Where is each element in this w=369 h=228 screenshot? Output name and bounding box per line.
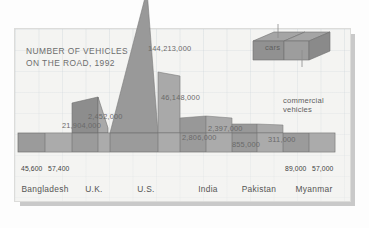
value-label-uk-cars: 21,904,000 <box>62 121 101 130</box>
baseline-label-myanmar-cars: 89,000 <box>285 165 306 172</box>
category-label-bangladesh: Bangladesh <box>14 184 76 194</box>
baseline-label-bangladesh-commercial: 57,400 <box>48 165 69 172</box>
value-label-india-commercial: 2,397,000 <box>208 124 243 133</box>
baseline-label-myanmar-commercial: 57,000 <box>312 165 333 172</box>
value-label-india-cars: 2,806,000 <box>182 133 217 142</box>
baseline-cell-us-commercial <box>158 133 180 151</box>
chart-figure: NUMBER OF VEHICLESON THE ROAD, 1992 144,… <box>0 0 369 228</box>
legend-box-front-commercial <box>284 41 309 60</box>
value-label-pakistan-commercial: 311,000 <box>268 135 296 144</box>
chart-title-line1: NUMBER OF VEHICLES <box>26 46 128 56</box>
category-label-india: India <box>184 184 232 194</box>
baseline-label-bangladesh-cars: 45,600 <box>21 165 42 172</box>
legend-label-cars: cars <box>265 43 280 52</box>
bar-pakistan-commercial <box>257 124 283 133</box>
category-label-uk: U.K. <box>72 184 116 194</box>
chart-title: NUMBER OF VEHICLESON THE ROAD, 1992 <box>26 46 128 69</box>
value-label-uk-commercial: 2,452,000 <box>88 112 123 121</box>
baseline-cell-uk-commercial <box>98 133 110 151</box>
bar-india-cars <box>180 116 206 133</box>
legend-label-commercial-vehicles: commercialvehicles <box>283 96 324 114</box>
baseline-cell-myanmar-commercial <box>309 133 335 151</box>
category-label-pakistan: Pakistan <box>232 184 286 194</box>
category-label-myanmar: Myanmar <box>286 184 342 194</box>
value-label-us-commercial: 46,148,000 <box>161 93 200 102</box>
legend-label-commercial-line1: commercial <box>283 96 324 105</box>
value-label-us-cars: 144,213,000 <box>148 44 191 53</box>
legend-label-commercial-line2: vehicles <box>283 105 312 114</box>
chart-title-line2: ON THE ROAD, 1992 <box>26 58 115 68</box>
category-label-us: U.S. <box>124 184 168 194</box>
bar-us-commercial <box>158 72 180 133</box>
baseline-cell-bangladesh-commercial <box>45 133 72 151</box>
value-label-pakistan-cars: 855,000 <box>232 140 260 149</box>
